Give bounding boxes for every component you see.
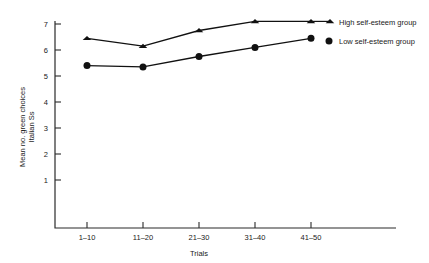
chart-legend: High self-esteem group Low self-esteem g… — [311, 18, 417, 46]
data-point-marker — [252, 44, 259, 51]
x-axis-title: Trials — [190, 249, 208, 258]
data-point-marker — [140, 63, 147, 70]
y-tick-label-7: 7 — [44, 20, 48, 29]
y-axis-tick-labels: 7 6 5 4 3 2 1 — [44, 20, 48, 185]
legend-label-high: High self-esteem group — [339, 18, 417, 27]
x-tick-label-1: 1–10 — [79, 233, 96, 242]
x-tick-label-4: 31–40 — [245, 233, 266, 242]
y-tick-label-6: 6 — [44, 46, 48, 55]
y-axis-title-line2: Italian Ss — [27, 111, 36, 142]
data-point-marker — [83, 36, 92, 40]
y-axis-title: Mean no. green choices Italian Ss — [18, 87, 36, 167]
data-point-marker — [308, 35, 315, 42]
x-tick-label-2: 11–20 — [133, 233, 153, 242]
y-tick-label-4: 4 — [44, 98, 48, 107]
legend-label-low: Low self-esteem group — [339, 37, 415, 46]
x-axis-ticks — [87, 222, 311, 228]
y-tick-label-1: 1 — [44, 176, 48, 185]
x-axis-tick-labels: 1–10 11–20 21–30 31–40 41–50 — [79, 233, 322, 242]
series-line-high — [87, 21, 311, 46]
data-point-marker — [196, 53, 203, 60]
chart-figure: 7 6 5 4 3 2 1 Mean no. green choices Ita… — [0, 0, 429, 263]
y-axis-ticks — [55, 24, 61, 180]
x-tick-label-3: 21–30 — [189, 233, 210, 242]
y-tick-label-3: 3 — [44, 124, 48, 133]
y-tick-label-2: 2 — [44, 150, 48, 159]
data-point-marker — [84, 62, 91, 69]
x-tick-label-5: 41–50 — [301, 233, 322, 242]
y-axis-title-line1: Mean no. green choices — [18, 87, 27, 167]
y-tick-label-5: 5 — [44, 72, 48, 81]
legend-marker-circle-icon — [326, 38, 333, 45]
data-series-layer — [83, 19, 316, 70]
line-chart-canvas: 7 6 5 4 3 2 1 Mean no. green choices Ita… — [0, 0, 429, 263]
